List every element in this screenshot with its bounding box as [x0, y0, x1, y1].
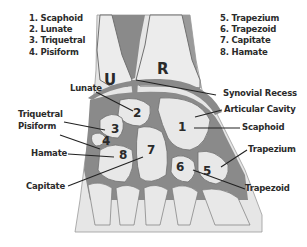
callout-articular-cavity: Articular Cavity [224, 104, 295, 114]
callout-triquetral: Triquetral [18, 109, 63, 119]
callout-capitate: Capitate [26, 181, 65, 191]
callout-pisiform: Pisiform [18, 121, 56, 131]
legend-item-scaphoid: 1. Scaphoid [29, 13, 85, 24]
legend-item-hamate: 8. Hamate [220, 47, 279, 58]
callout-trapezoid: Trapezoid [245, 183, 290, 193]
callout-lunate: Lunate [70, 83, 102, 93]
bone-number-3: 3 [111, 122, 119, 136]
label-radius: R [157, 60, 169, 78]
bone-number-6: 6 [176, 160, 184, 174]
label-ulna: U [104, 71, 116, 89]
bone-number-5: 5 [203, 164, 211, 178]
callout-synovial-recess: Synovial Recess [223, 88, 297, 98]
wrist-anatomy-diagram: 1. Scaphoid 2. Lunate 3. Triquetral 4. P… [0, 0, 307, 247]
callout-trapezium: Trapezium [248, 144, 296, 154]
legend-item-trapezium: 5. Trapezium [220, 13, 279, 24]
bone-number-8: 8 [119, 148, 127, 162]
bone-number-4: 4 [102, 134, 110, 148]
legend-item-triquetral: 3. Triquetral [29, 35, 85, 46]
legend-right: 5. Trapezium 6. Trapezoid 7. Capitate 8.… [220, 13, 279, 58]
callout-hamate: Hamate [31, 148, 67, 158]
callout-scaphoid: Scaphoid [242, 122, 284, 132]
bone-number-2: 2 [133, 106, 141, 120]
bone-number-1: 1 [178, 120, 186, 134]
legend-item-lunate: 2. Lunate [29, 24, 85, 35]
legend-left: 1. Scaphoid 2. Lunate 3. Triquetral 4. P… [29, 13, 85, 58]
bone-number-7: 7 [147, 143, 155, 157]
bone-hamate [98, 145, 133, 182]
legend-item-pisiform: 4. Pisiform [29, 47, 85, 58]
legend-item-capitate: 7. Capitate [220, 35, 279, 46]
legend-item-trapezoid: 6. Trapezoid [220, 24, 279, 35]
